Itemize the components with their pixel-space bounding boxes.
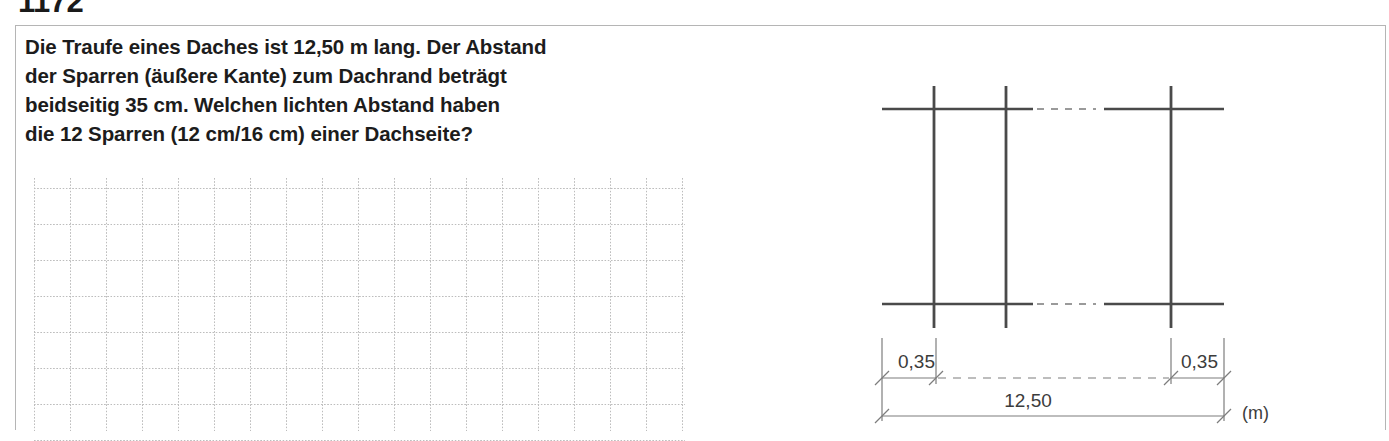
- answer-grid[interactable]: [34, 178, 685, 431]
- question-line-3: beidseitig 35 cm. Welchen lichten Abstan…: [25, 90, 725, 119]
- grid-line-vertical: [358, 178, 359, 431]
- label-unit: (m): [1242, 403, 1269, 423]
- label-right-offset: 0,35: [1181, 351, 1218, 372]
- question-line-2: der Sparren (äußere Kante) zum Dachrand …: [25, 61, 725, 90]
- label-total-length: 12,50: [1004, 390, 1052, 411]
- grid-line-vertical: [106, 178, 107, 431]
- grid-line-horizontal: [34, 296, 685, 297]
- grid-line-vertical: [178, 178, 179, 431]
- grid-line-vertical: [34, 178, 35, 431]
- label-left-offset: 0,35: [898, 351, 935, 372]
- grid-line-vertical: [322, 178, 323, 431]
- grid-line-vertical: [538, 178, 539, 431]
- offset-dimension-row: [875, 371, 1231, 385]
- grid-line-vertical: [502, 178, 503, 431]
- exercise-number: 1172: [18, 0, 83, 17]
- grid-line-horizontal: [34, 224, 685, 225]
- grid-line-horizontal: [34, 368, 685, 369]
- grid-line-vertical: [682, 178, 683, 431]
- grid-line-horizontal: [34, 404, 685, 405]
- total-dimension-row: [875, 409, 1231, 423]
- grid-line-horizontal: [34, 188, 685, 189]
- grid-line-vertical: [142, 178, 143, 431]
- grid-line-vertical: [250, 178, 251, 431]
- grid-line-vertical: [430, 178, 431, 431]
- exercise-frame: Die Traufe eines Daches ist 12,50 m lang…: [15, 25, 1386, 430]
- grid-line-vertical: [286, 178, 287, 431]
- question-line-1: Die Traufe eines Daches ist 12,50 m lang…: [25, 32, 725, 61]
- question-text: Die Traufe eines Daches ist 12,50 m lang…: [25, 32, 725, 148]
- grid-line-vertical: [70, 178, 71, 431]
- grid-line-vertical: [394, 178, 395, 431]
- grid-line-horizontal: [34, 332, 685, 333]
- grid-line-horizontal: [34, 260, 685, 261]
- rafter-diagram: 0,35 0,35 12,50 (m): [856, 66, 1286, 426]
- grid-line-vertical: [646, 178, 647, 431]
- grid-line-vertical: [466, 178, 467, 431]
- rafters: [934, 86, 1171, 328]
- grid-line-vertical: [214, 178, 215, 431]
- grid-line-vertical: [574, 178, 575, 431]
- grid-line-vertical: [610, 178, 611, 431]
- question-line-4: die 12 Sparren (12 cm/16 cm) einer Dachs…: [25, 119, 725, 148]
